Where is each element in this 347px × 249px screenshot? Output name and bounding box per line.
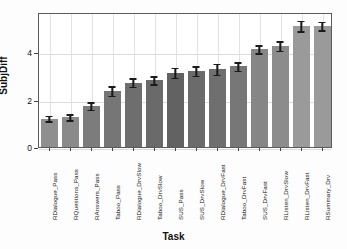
x-tick-label: Taboo_Pass — [114, 185, 121, 220]
bar-item — [314, 12, 331, 147]
error-bar-cap-lower — [130, 87, 137, 88]
error-bar-line — [196, 66, 197, 75]
x-tick-mark — [49, 148, 50, 151]
error-bar-cap-upper — [172, 68, 179, 69]
bar-item — [167, 12, 184, 147]
bar-item — [293, 12, 310, 147]
bar-item — [83, 12, 100, 147]
error-bar-line — [112, 86, 113, 95]
x-tick-mark — [217, 148, 218, 151]
bar-item — [104, 12, 121, 147]
bar — [188, 71, 205, 147]
error-bar-cap-lower — [298, 31, 305, 32]
x-tick-label: RListen_DrvSlow — [282, 171, 289, 220]
error-bar-cap-upper — [151, 76, 158, 77]
error-bar-cap-lower — [214, 75, 221, 76]
error-bar-cap-upper — [193, 66, 200, 67]
y-axis-title: SubjDiff — [0, 56, 9, 94]
gridline-horizontal — [39, 149, 331, 150]
error-bar-cap-lower — [277, 51, 284, 52]
error-bar-cap-upper — [298, 21, 305, 22]
x-tick-label: RDialogue_DrvSlow — [135, 163, 142, 220]
error-bar-cap-lower — [193, 76, 200, 77]
bar — [251, 49, 268, 147]
bar — [209, 69, 226, 147]
x-tick-mark — [91, 148, 92, 151]
x-tick-label: SUS_Pass — [177, 189, 184, 220]
x-axis-title: Task — [0, 231, 347, 242]
error-bar-line — [301, 21, 302, 31]
bar-item — [209, 12, 226, 147]
x-tick-label: Taboo_DrvSlow — [156, 175, 163, 220]
error-bar-cap-upper — [214, 64, 221, 65]
error-bar-line — [217, 64, 218, 74]
chart-container: 024 RDialogue_PassRQuestions_PassRAnswer… — [0, 0, 347, 249]
x-tick-mark — [133, 148, 134, 151]
error-bar-cap-upper — [109, 86, 116, 87]
error-bar-cap-upper — [277, 41, 284, 42]
error-bar-cap-upper — [319, 22, 326, 23]
error-bar-cap-upper — [130, 78, 137, 79]
error-bar-cap-lower — [46, 121, 53, 122]
bar-item — [62, 12, 79, 147]
x-tick-label: RSummary_Drv — [324, 175, 331, 220]
bar — [146, 80, 163, 147]
x-tick-mark — [196, 148, 197, 151]
bar-item — [188, 12, 205, 147]
x-tick-mark — [175, 148, 176, 151]
x-tick-mark — [238, 148, 239, 151]
error-bar-cap-lower — [319, 30, 326, 31]
x-tick-label: RDialogue_Pass — [51, 173, 58, 221]
error-bar-cap-upper — [235, 62, 242, 63]
x-tick-label: RQuestions_Pass — [72, 169, 79, 220]
x-tick-label: RListen_DrvFast — [303, 172, 310, 220]
x-tick-mark — [322, 148, 323, 151]
bar — [314, 26, 331, 147]
error-bar-cap-lower — [151, 84, 158, 85]
error-bar-cap-lower — [235, 71, 242, 72]
x-tick-mark — [70, 148, 71, 151]
x-tick-label: SUS_DrvFast — [261, 181, 268, 220]
y-tick-label: 4 — [27, 49, 32, 58]
error-bar-cap-lower — [256, 53, 263, 54]
plot-area — [38, 13, 332, 148]
error-bar-cap-lower — [67, 120, 74, 121]
bar — [293, 26, 310, 147]
error-bar-line — [175, 68, 176, 78]
error-bar-cap-lower — [172, 78, 179, 79]
bar-item — [230, 12, 247, 147]
bar-item — [125, 12, 142, 147]
x-tick-label: RDialogue_DrvFast — [219, 164, 226, 220]
bar — [230, 66, 247, 147]
x-tick-mark — [259, 148, 260, 151]
bar — [167, 73, 184, 147]
bar-series — [39, 14, 331, 147]
bar-item — [272, 12, 289, 147]
bar — [104, 91, 121, 147]
y-tick-label: 0 — [27, 144, 32, 153]
x-tick-mark — [280, 148, 281, 151]
bar — [41, 119, 58, 147]
y-tick-label: 2 — [27, 96, 32, 105]
bar — [272, 46, 289, 147]
bar-item — [146, 12, 163, 147]
error-bar-cap-upper — [67, 114, 74, 115]
x-tick-label: SUS_DrvSlow — [198, 180, 205, 220]
bar — [83, 106, 100, 147]
bar-item — [41, 12, 58, 147]
bar — [125, 83, 142, 147]
x-tick-mark — [112, 148, 113, 151]
error-bar-line — [280, 41, 281, 50]
y-tick-mark — [34, 148, 38, 149]
error-bar-cap-lower — [88, 110, 95, 111]
bar-item — [251, 12, 268, 147]
x-tick-label: Taboo_DrvFast — [240, 177, 247, 220]
error-bar-cap-upper — [88, 102, 95, 103]
error-bar-cap-lower — [109, 96, 116, 97]
error-bar-cap-upper — [46, 116, 53, 117]
error-bar-cap-upper — [256, 45, 263, 46]
x-tick-label: RAnswers_Pass — [93, 173, 100, 220]
x-tick-mark — [301, 148, 302, 151]
y-tick-mark — [34, 53, 38, 54]
y-tick-mark — [34, 101, 38, 102]
